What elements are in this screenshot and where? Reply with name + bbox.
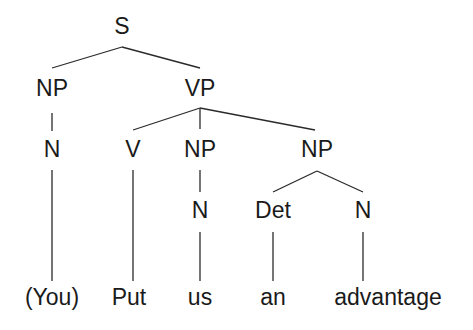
node-np-object1: NP: [184, 136, 216, 162]
edge-vp-v: [133, 108, 200, 130]
node-np-subject: NP: [36, 75, 68, 101]
tree-leaves: (You) Put us an advantage: [25, 284, 442, 310]
node-s: S: [114, 13, 129, 39]
edge-vp-np2: [200, 108, 315, 130]
node-np-object2: NP: [301, 136, 333, 162]
node-n-object1: N: [192, 197, 209, 223]
tree-nodes: S NP VP N V NP NP N Det N: [36, 13, 371, 223]
edge-s-np: [52, 47, 122, 68]
edge-np2-det: [273, 171, 317, 192]
edge-s-vp: [122, 47, 200, 68]
node-v: V: [125, 136, 141, 162]
edge-np2-n: [317, 171, 363, 192]
word-an: an: [260, 284, 286, 310]
node-vp: VP: [185, 75, 216, 101]
syntax-tree-diagram: S NP VP N V NP NP N Det N (You) Put us a…: [0, 0, 473, 330]
word-put: Put: [112, 284, 147, 310]
node-n-object2: N: [355, 197, 372, 223]
word-us: us: [188, 284, 212, 310]
word-you: (You): [25, 284, 79, 310]
word-advantage: advantage: [334, 284, 441, 310]
node-n-subject: N: [44, 136, 61, 162]
node-det: Det: [255, 197, 291, 223]
